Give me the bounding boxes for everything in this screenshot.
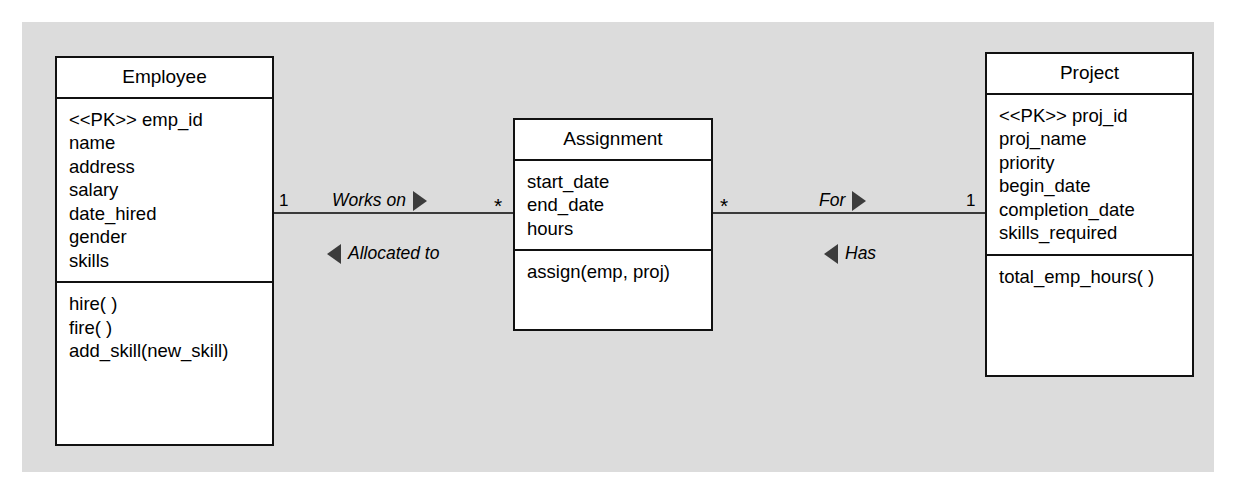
operation-row: fire( ) [69, 316, 272, 340]
association-line-employee-assignment [274, 212, 513, 214]
triangle-right-icon [413, 191, 427, 211]
attribute-row: gender [69, 225, 272, 249]
attribute-row: proj_name [999, 127, 1192, 151]
attribute-row: priority [999, 151, 1192, 175]
association-label-has: Has [824, 244, 876, 264]
attributes-compartment-project: <<PK>> proj_id proj_name priority begin_… [987, 95, 1192, 254]
operations-compartment-project: total_emp_hours( ) [987, 256, 1192, 298]
attribute-row: skills [69, 249, 272, 273]
attribute-row: begin_date [999, 174, 1192, 198]
attributes-compartment-assignment: start_date end_date hours [515, 161, 711, 250]
triangle-right-icon [852, 191, 866, 211]
operation-row: total_emp_hours( ) [999, 265, 1192, 289]
uml-class-employee[interactable]: Employee <<PK>> emp_id name address sala… [55, 56, 274, 446]
uml-diagram-canvas: 1 * * 1 Works on Allocated to For Has Em… [22, 22, 1214, 472]
class-name-employee: Employee [57, 58, 272, 97]
association-label-has-text: Has [845, 245, 876, 263]
operation-row: add_skill(new_skill) [69, 339, 272, 363]
attribute-row: name [69, 131, 272, 155]
class-name-project: Project [987, 54, 1192, 93]
attribute-row: date_hired [69, 202, 272, 226]
uml-class-assignment[interactable]: Assignment start_date end_date hours ass… [513, 118, 713, 331]
association-label-works-on: Works on [332, 191, 427, 211]
class-name-assignment: Assignment [515, 120, 711, 159]
attribute-row: <<PK>> emp_id [69, 108, 272, 132]
attribute-row: salary [69, 178, 272, 202]
operation-row: assign(emp, proj) [527, 260, 711, 284]
association-label-for-text: For [819, 192, 845, 210]
triangle-left-icon [824, 244, 838, 264]
multiplicity-project-side: 1 [966, 192, 975, 209]
association-label-allocated-to-text: Allocated to [348, 245, 439, 263]
operations-compartment-assignment: assign(emp, proj) [515, 251, 711, 293]
attribute-row: address [69, 155, 272, 179]
triangle-left-icon [327, 244, 341, 264]
association-label-for: For [819, 191, 866, 211]
attribute-row: completion_date [999, 198, 1192, 222]
operation-row: hire( ) [69, 292, 272, 316]
multiplicity-assignment-left-side: * [494, 195, 502, 216]
uml-class-project[interactable]: Project <<PK>> proj_id proj_name priorit… [985, 52, 1194, 377]
attribute-row: start_date [527, 170, 711, 194]
multiplicity-assignment-right-side: * [720, 195, 728, 216]
attribute-row: hours [527, 217, 711, 241]
attribute-row: <<PK>> proj_id [999, 104, 1192, 128]
association-label-works-on-text: Works on [332, 192, 406, 210]
attribute-row: skills_required [999, 221, 1192, 245]
association-line-assignment-project [713, 212, 985, 214]
attribute-row: end_date [527, 193, 711, 217]
attributes-compartment-employee: <<PK>> emp_id name address salary date_h… [57, 99, 272, 282]
multiplicity-employee-side: 1 [279, 192, 288, 209]
operations-compartment-employee: hire( ) fire( ) add_skill(new_skill) [57, 283, 272, 372]
association-label-allocated-to: Allocated to [327, 244, 439, 264]
